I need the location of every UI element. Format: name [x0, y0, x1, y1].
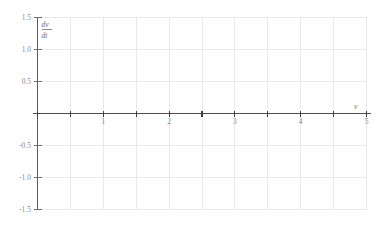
x-tick-label-3: 3	[233, 117, 237, 126]
x-tick-label-2: 2	[167, 117, 171, 126]
y-tick-label-0p5: 0.5	[22, 77, 32, 86]
y-tick-label-m1p5: -1.5	[19, 205, 31, 214]
y-axis-label-numerator: dv	[42, 20, 50, 29]
plot-canvas: 1.5 1.0 0.5 -0.5 -1.0 -1.5 dv dt	[0, 0, 385, 227]
y-tick-label-m0p5: -0.5	[19, 141, 31, 150]
chart-figure: 1.5 1.0 0.5 -0.5 -1.0 -1.5 dv dt	[0, 0, 385, 227]
y-axis-label-denominator: dt	[42, 31, 49, 40]
x-tick-label-5: 5	[365, 117, 369, 126]
y-tick-label-1p0: 1.0	[22, 45, 32, 54]
x-tick-label-4: 4	[299, 117, 303, 126]
y-tick-label-m1p0: -1.0	[19, 173, 31, 182]
x-tick-label-1: 1	[101, 117, 105, 126]
y-tick-label-1p5: 1.5	[22, 13, 32, 22]
